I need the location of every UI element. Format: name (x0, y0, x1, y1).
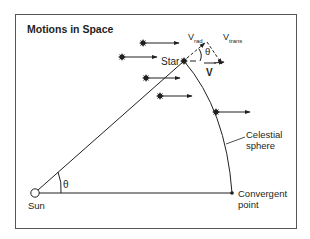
diagram-title: Motions in Space (27, 23, 114, 35)
convergent-label: Convergent (238, 188, 287, 199)
star-motion-arrows (122, 43, 250, 112)
convergent-point-dot (230, 191, 234, 195)
star-icon (157, 93, 164, 100)
theta-star-label: θ (205, 46, 210, 57)
star-icon (143, 75, 150, 82)
v-total-label: V (206, 67, 213, 78)
theta-sun-label: θ (63, 179, 69, 190)
v-trans-label: Vtrans (223, 32, 242, 44)
sun-star-line (38, 61, 184, 190)
theta-arc-sun (58, 172, 61, 193)
sun-label: Sun (28, 200, 45, 211)
star-icon (119, 54, 126, 61)
celestial-leader-line (226, 137, 245, 144)
point-label: point (238, 199, 259, 210)
v-rad-label: Vrad (188, 32, 203, 44)
celestial-label: Celestial (246, 129, 282, 140)
celestial-sphere-arc (184, 61, 232, 193)
star-label: Star (161, 56, 180, 67)
sun-icon (31, 189, 39, 197)
star-icon (140, 40, 147, 47)
sphere-label: sphere (246, 140, 275, 151)
motions-in-space-diagram: Motions in Space θ Star Vrad Vtrans θ V (0, 0, 310, 239)
